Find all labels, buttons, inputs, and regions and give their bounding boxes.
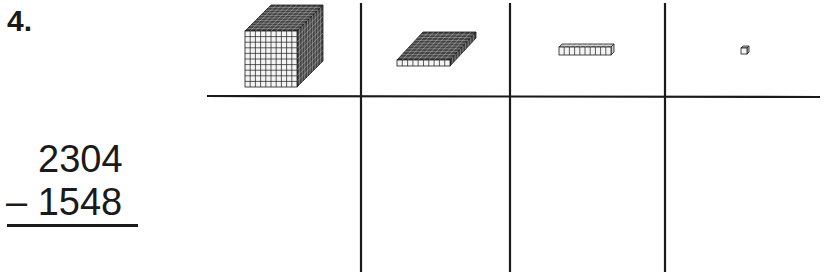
ones-unit-cube-icon bbox=[741, 46, 749, 54]
thousands-cube-icon bbox=[245, 5, 323, 87]
header-divider-line bbox=[207, 96, 820, 97]
place-value-chart bbox=[0, 0, 826, 272]
hundreds-flat-icon bbox=[397, 32, 476, 66]
tens-rod-icon bbox=[559, 44, 614, 55]
